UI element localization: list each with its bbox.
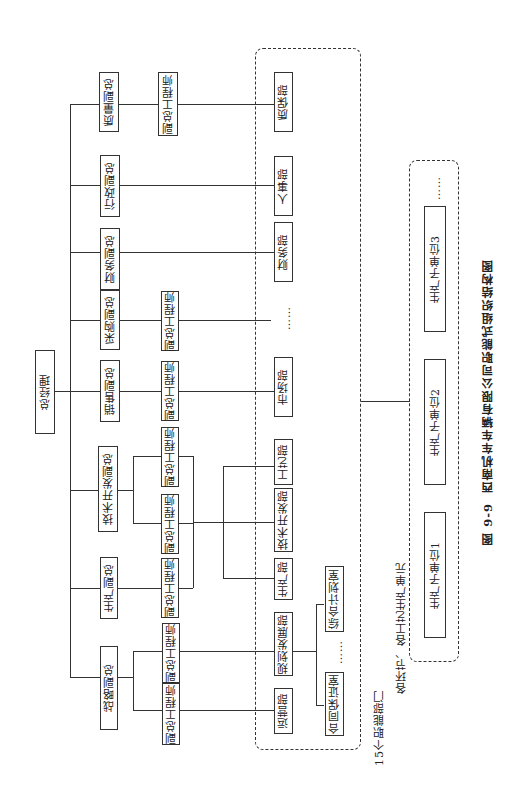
vp-box-purchase: 采购副总 xyxy=(100,290,120,350)
root-box-general-manager: 总经理 xyxy=(35,350,55,434)
dept-box: 规划发展部 xyxy=(274,612,293,676)
vp-box-quality: 质量副总 xyxy=(99,72,119,132)
connector xyxy=(179,456,193,457)
engineer-label: 副总工程师 xyxy=(165,361,176,421)
vp-box-finance: 财务副总 xyxy=(100,228,120,290)
vp-label: 战略副总 xyxy=(104,664,115,712)
engineer-box-tech-2: 副总工程师 xyxy=(161,494,179,554)
engineer-box-tech-1: 副总工程师 xyxy=(161,427,179,487)
connector xyxy=(70,588,100,589)
vp-box-sales: 销售副总 xyxy=(100,360,120,422)
dept-box: 市场部 xyxy=(274,357,293,417)
production-unit-label: 生产子单位3 xyxy=(430,235,441,303)
vp-label: 行政副总 xyxy=(105,162,116,210)
dept-label: 生产部 xyxy=(278,561,289,597)
root-label: 总经理 xyxy=(40,374,51,410)
connector xyxy=(70,252,100,253)
engineer-box-production: 副总工程师 xyxy=(161,558,179,618)
caption-text: 图 9-9 西南机车车辆有限公司职能式组织结构图 xyxy=(483,259,495,545)
caption-number: 图 9-9 xyxy=(481,503,495,545)
vp-label: 采购副总 xyxy=(105,296,116,344)
connector xyxy=(70,490,98,491)
engineer-label: 副总工程师 xyxy=(165,291,176,351)
sub-office-label: 合同保证室 xyxy=(329,674,340,734)
connector xyxy=(70,104,99,105)
production-unit-box: 生产子单位2 xyxy=(424,359,446,485)
connector xyxy=(193,522,223,523)
dept-ellipsis: …… xyxy=(281,306,292,330)
production-unit-box: 生产子单位3 xyxy=(424,206,446,332)
dept-box: 财务部 xyxy=(274,222,293,282)
departments-group xyxy=(255,48,361,750)
connector xyxy=(70,320,100,321)
engineer-label: 副总工程师 xyxy=(165,494,176,554)
dept-label: 规划发展部 xyxy=(278,614,289,674)
connector xyxy=(120,185,274,186)
dept-label: 质保部 xyxy=(278,84,289,120)
connector xyxy=(70,391,100,392)
connector xyxy=(70,677,100,678)
connector xyxy=(133,456,134,524)
engineer-box-purchase: 副总工程师 xyxy=(161,291,179,351)
engineer-box-strategy-1: 副总工程师 xyxy=(162,623,180,683)
connector xyxy=(120,320,161,321)
dept-label: 运营部 xyxy=(278,693,289,729)
connector xyxy=(133,523,161,524)
connector xyxy=(119,104,158,105)
dept-box: 工艺部 xyxy=(274,439,293,485)
vp-label: 技术开发副总 xyxy=(103,453,114,525)
connector xyxy=(120,252,274,253)
engineer-box-sales: 副总工程师 xyxy=(161,361,179,421)
dept-box: 运营部 xyxy=(274,688,293,734)
production-unit-label: 生产子单位1 xyxy=(430,541,441,609)
connector xyxy=(133,651,162,652)
engineer-label: 副总工程师 xyxy=(163,74,174,134)
dept-label: 财务部 xyxy=(278,234,289,270)
engineer-label: 副总工程师 xyxy=(165,558,176,618)
vp-label: 财务副总 xyxy=(105,235,116,283)
engineer-label: 副总工程师 xyxy=(166,684,177,744)
dept-box: 生产部 xyxy=(274,558,293,600)
dept-box: 人事部 xyxy=(274,156,293,216)
dept-box: 技术开发部 xyxy=(274,488,293,552)
engineer-label: 副总工程师 xyxy=(166,623,177,683)
connector xyxy=(118,677,134,678)
connector xyxy=(179,523,193,524)
dept-label: 市场部 xyxy=(278,369,289,405)
connector xyxy=(55,391,70,392)
production-unit-label: 生产子单位2 xyxy=(430,388,441,456)
sub-office-box: 综合计划室 xyxy=(325,566,344,632)
vp-box-strategy: 战略副总 xyxy=(100,646,118,730)
sub-office-ellipsis: …… xyxy=(333,640,344,664)
production-units-group-label: 各环节、各工艺生产单元 xyxy=(396,562,407,694)
connector xyxy=(70,185,100,186)
vp-label: 质量副总 xyxy=(104,78,115,126)
connector xyxy=(118,588,161,589)
connector xyxy=(118,490,134,491)
dept-label: 工艺部 xyxy=(278,444,289,480)
departments-group-label: 15个职能部门 xyxy=(374,690,385,766)
engineer-box-strategy-2: 副总工程师 xyxy=(162,683,180,745)
sub-office-box: 合同保证室 xyxy=(325,672,344,736)
connector xyxy=(133,710,162,711)
connector xyxy=(133,651,134,711)
dept-box: 质保部 xyxy=(274,72,293,132)
production-unit-box: 生产子单位1 xyxy=(424,512,446,638)
vp-box-admin: 行政副总 xyxy=(100,155,120,217)
vp-box-production: 生产副总 xyxy=(100,557,118,619)
connector xyxy=(361,401,410,402)
connector xyxy=(120,391,161,392)
connector xyxy=(179,588,193,589)
sub-office-label: 综合计划室 xyxy=(329,569,340,629)
dept-label: 技术开发部 xyxy=(278,490,289,550)
vp-box-tech: 技术开发副总 xyxy=(98,446,118,532)
vp-label: 生产副总 xyxy=(104,564,115,612)
caption-title: 西南机车车辆有限公司职能式组织结构图 xyxy=(481,259,495,493)
engineer-box-quality: 副总工程师 xyxy=(158,72,178,136)
dept-label: 人事部 xyxy=(278,168,289,204)
engineer-label: 副总工程师 xyxy=(165,427,176,487)
vp-label: 销售副总 xyxy=(105,367,116,415)
figure-caption: 图 9-9 西南机车车辆有限公司职能式组织结构图 xyxy=(479,262,499,542)
production-ellipsis: …… xyxy=(431,176,442,200)
connector xyxy=(133,456,161,457)
